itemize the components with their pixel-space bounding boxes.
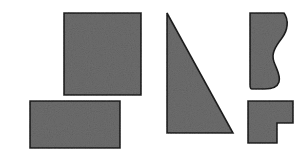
shapes-canvas xyxy=(0,0,307,154)
shape-square xyxy=(64,13,141,95)
shapes-illustration xyxy=(0,0,307,154)
shape-rectangle xyxy=(30,101,120,148)
